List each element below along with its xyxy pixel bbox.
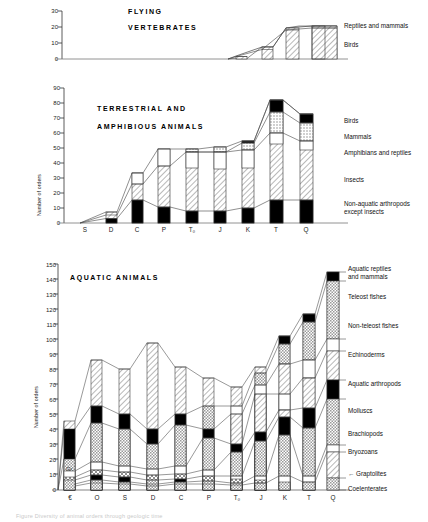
panel3-xtick-O: O <box>89 494 105 501</box>
panel3-legend-aquatic-arthropods: Aquatic arthropods <box>348 380 401 388</box>
panel3-xtick-K: K <box>277 494 293 501</box>
panel3-legend-coelenterates: Coelenterates <box>348 485 387 493</box>
panel2-legend-insects: Insects <box>344 176 364 184</box>
panel2-xtick-D: D <box>103 226 119 233</box>
panel3-legend-molluscs: Molluscs <box>348 407 373 415</box>
panel2-legend-birds: Birds <box>344 117 358 125</box>
panel3-xtick-T: T <box>301 494 317 501</box>
panel3-legend-echinoderms: Echinoderms <box>348 351 385 359</box>
panel2-xtick-J: J <box>212 226 228 233</box>
figure-caption: Figure Diversity of animal orders throug… <box>16 513 163 519</box>
panel1-legend-birds: Birds <box>344 41 358 49</box>
panel3-xtick-T0: T₀ <box>229 494 245 501</box>
panel2-xtick-Q: Q <box>298 226 314 233</box>
panel3-xtick-Q: Q <box>325 494 341 501</box>
panel3-xtick-D: D <box>145 494 161 501</box>
panel-aquatic-animals: Number of orders AQUATIC ANIMALS 150 140… <box>0 248 428 522</box>
panel3-legend-graptolites: ← Graptolites <box>348 470 387 478</box>
panel3-legend-teleost-fishes: Teleost fishes <box>348 293 386 301</box>
panel-flying-vertebrates: FLYING VERTEBRATES 30 20 10 0 <box>0 0 428 72</box>
panel3-legend-non-teleost-fishes: Non-teleost fishes <box>348 322 398 330</box>
panel2-xtick-T0: T₀ <box>184 226 200 233</box>
panel2-xtick-S: S <box>77 226 93 233</box>
panel2-xtick-T: T <box>268 226 284 233</box>
panel2-legend-nonaquatic-arthropods: Non-aquatic arthropods except insects <box>344 200 410 215</box>
panel2-xtick-P: P <box>156 226 172 233</box>
panel3-xtick-cambrian: € <box>62 494 78 501</box>
panel3-legend-brachiopods: Brachiopods <box>348 430 383 438</box>
panel3-legend-aquatic-reptiles-mammals: Aquatic reptiles and mammals <box>348 265 391 280</box>
panel2-legend-amphibians-reptiles: Amphibians and reptiles <box>344 149 411 157</box>
graptolites-annotation: Gr. <box>66 466 74 472</box>
panel2-xtick-C: C <box>129 226 145 233</box>
panel-terrestrial-amphibious: Number of orders TERRESTRIAL AND AMPHIBI… <box>0 76 428 236</box>
panel3-legend-bryozoans: Bryozoans <box>348 448 378 456</box>
panel2-legend-mammals: Mammals <box>344 133 371 141</box>
panel1-legend-reptiles-mammals: Reptiles and mammals <box>344 22 408 30</box>
panel3-xtick-C: C <box>173 494 189 501</box>
panel3-xtick-J: J <box>253 494 269 501</box>
panel2-xtick-K: K <box>240 226 256 233</box>
panel3-xtick-P: P <box>201 494 217 501</box>
panel3-xtick-S: S <box>117 494 133 501</box>
panel1-plot <box>0 0 428 72</box>
